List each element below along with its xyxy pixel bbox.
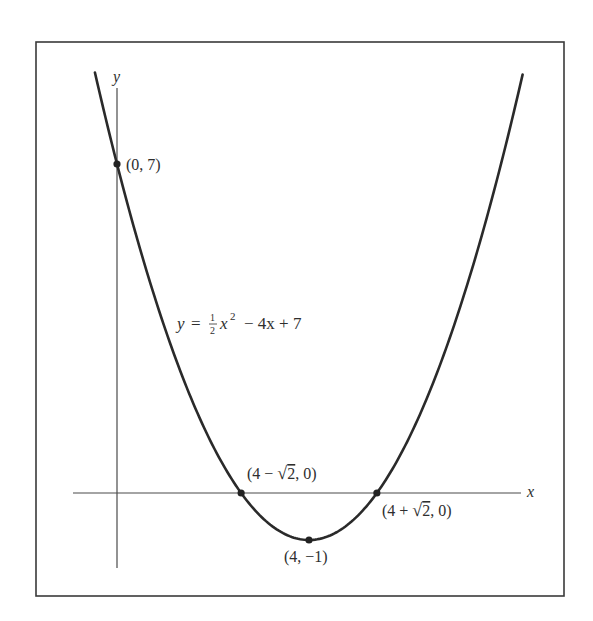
equation-rest: − 4x + 7 [244,314,302,333]
equation-lhs: y [175,314,185,333]
point-label-vertex: (4, −1) [284,548,328,566]
point-label-root-left: (4 − √2, 0) [247,463,317,483]
root-left-prefix: (4 − [247,465,277,483]
point-marker-root-left [238,489,245,496]
equation-variable: x [219,314,228,333]
equation-fraction-numerator: 1 [210,312,215,323]
sqrt-icon: √ [277,463,287,483]
root-left-sqrt-arg: 2 [287,465,295,482]
equation-label: y = 1 2 x 2 − 4x + 7 [175,310,302,336]
y-axis-label: y [111,68,121,86]
parabola-figure: x y (0, 7) (4 − √2, 0) (4 + √2, 0) (4, −… [0,0,593,621]
root-right-prefix: (4 + [382,502,412,520]
point-marker-root-right [373,489,380,496]
sqrt-icon: √ [412,500,422,520]
equation-equals: = [191,314,201,333]
point-marker-vertex [305,536,312,543]
root-left-suffix: , 0) [295,465,316,483]
x-axis-label: x [526,483,534,500]
equation-exponent: 2 [230,310,236,322]
labeled-points [113,160,380,543]
root-right-sqrt-arg: 2 [422,502,430,519]
point-label-root-right: (4 + √2, 0) [382,500,452,520]
root-right-suffix: , 0) [430,502,451,520]
point-marker-y-intercept [113,160,120,167]
equation-fraction-denominator: 2 [210,325,215,336]
point-label-y-intercept: (0, 7) [126,156,161,174]
